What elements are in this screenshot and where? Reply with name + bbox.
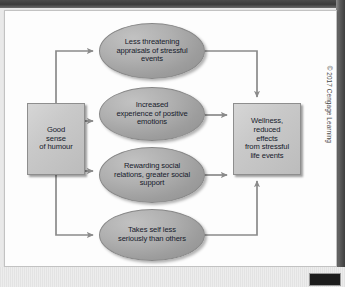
- node-label: Increasedexperience of positiveemotions: [116, 101, 187, 127]
- copyright-credit: © 2017 Cengage Learning: [326, 66, 333, 143]
- node-label: Less threateningappraisals of stressfule…: [116, 38, 187, 64]
- node-takes-self-less-seriously: Takes self lessseriously than others: [99, 209, 205, 261]
- node-good-sense-of-humour: Goodsenseof humour: [27, 103, 85, 175]
- window-bottom-strip: [0, 267, 345, 287]
- node-label: Takes self lessseriously than others: [118, 226, 186, 244]
- node-increased-positive-emotions: Increasedexperience of positiveemotions: [99, 87, 205, 141]
- screenshot-root: Goodsenseof humour Less threateningappra…: [0, 0, 345, 287]
- node-rewarding-social-relations: Rewarding socialrelations, greater socia…: [99, 147, 205, 203]
- bottom-right-chip: [309, 273, 341, 286]
- diagram-stage: Goodsenseof humour Less threateningappra…: [5, 11, 336, 266]
- node-label: Goodsenseof humour: [39, 126, 72, 152]
- edge-appraisals-to-outcome: [205, 51, 257, 97]
- figure-card: Goodsenseof humour Less threateningappra…: [4, 10, 337, 267]
- edge-source-to-takes: [56, 175, 93, 235]
- edge-source-to-appraisals: [56, 51, 93, 103]
- node-label: Wellness,reducedeffectsfrom stressfullif…: [245, 117, 289, 161]
- edge-takes-to-outcome: [205, 181, 257, 235]
- node-label: Rewarding socialrelations, greater socia…: [114, 162, 190, 188]
- window-right-bar: [336, 0, 345, 287]
- node-wellness-reduced-effects: Wellness,reducedeffectsfrom stressfullif…: [233, 103, 301, 175]
- window-top-bar: [0, 0, 345, 8]
- node-less-threatening-appraisals: Less threateningappraisals of stressfule…: [99, 23, 205, 79]
